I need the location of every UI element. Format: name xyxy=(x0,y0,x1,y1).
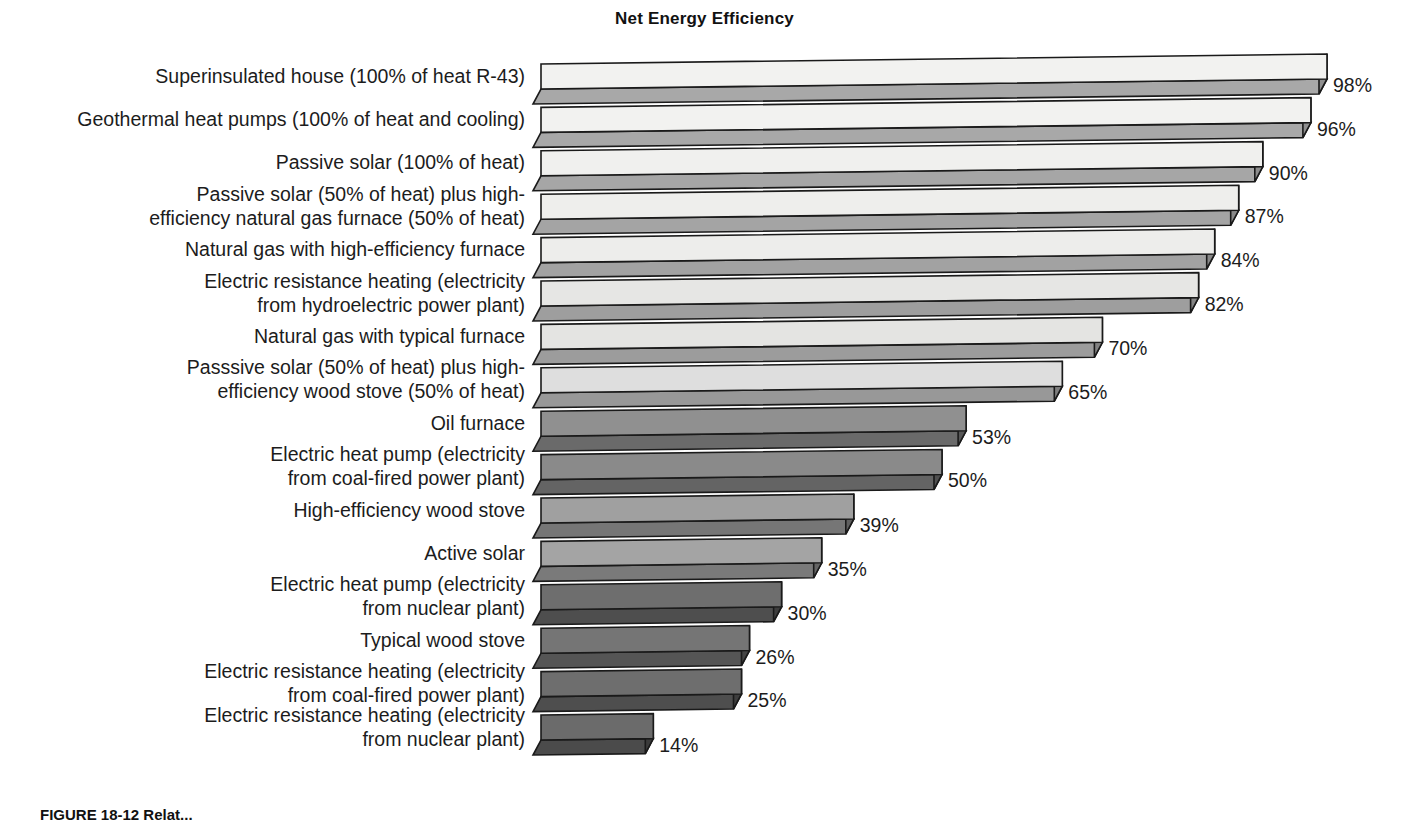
bar-top-face xyxy=(541,669,742,697)
bar-10 xyxy=(533,450,942,495)
bar-2 xyxy=(533,98,1311,148)
value-label: 30% xyxy=(788,602,827,625)
category-label: Active solar xyxy=(5,541,525,565)
bar-front-face xyxy=(533,739,653,755)
bar-1 xyxy=(533,54,1327,104)
bar-15 xyxy=(533,669,742,712)
category-label: Electric resistance heating (electricity… xyxy=(5,703,525,751)
value-label: 25% xyxy=(748,689,787,712)
category-label: High-efficiency wood stove xyxy=(5,498,525,522)
bar-12 xyxy=(533,538,822,582)
bar-16 xyxy=(533,714,653,755)
category-label: Passsive solar (50% of heat) plus high- … xyxy=(5,355,525,403)
value-label: 98% xyxy=(1333,74,1372,97)
bar-top-face xyxy=(541,538,822,567)
value-label: 96% xyxy=(1317,118,1356,141)
category-label: Electric resistance heating (electricity… xyxy=(5,659,525,707)
bar-8 xyxy=(533,361,1062,408)
bar-13 xyxy=(533,582,782,625)
value-label: 53% xyxy=(972,426,1011,449)
bar-14 xyxy=(533,626,750,669)
bar-top-face xyxy=(541,626,750,654)
value-label: 35% xyxy=(828,558,867,581)
category-label: Electric heat pump (electricity from nuc… xyxy=(5,572,525,620)
bar-6 xyxy=(533,273,1199,321)
category-label: Typical wood stove xyxy=(5,628,525,652)
bar-4 xyxy=(533,185,1239,234)
value-label: 50% xyxy=(948,469,987,492)
bar-3 xyxy=(533,142,1263,191)
value-label: 26% xyxy=(756,646,795,669)
category-label: Passive solar (100% of heat) xyxy=(5,150,525,174)
value-label: 90% xyxy=(1269,162,1308,185)
category-label: Natural gas with high-efficiency furnace xyxy=(5,237,525,261)
bar-5 xyxy=(533,229,1215,278)
bar-11 xyxy=(533,494,854,538)
category-label: Natural gas with typical furnace xyxy=(5,324,525,348)
category-label: Superinsulated house (100% of heat R-43) xyxy=(5,64,525,88)
category-label: Electric resistance heating (electricity… xyxy=(5,269,525,317)
category-label: Geothermal heat pumps (100% of heat and … xyxy=(5,107,525,131)
bar-top-face xyxy=(541,406,966,436)
category-label: Electric heat pump (electricity from coa… xyxy=(5,442,525,490)
value-label: 84% xyxy=(1221,249,1260,272)
value-label: 14% xyxy=(659,734,698,757)
bar-9 xyxy=(533,406,966,451)
chart-container: Net Energy Efficiency Superinsulated hou… xyxy=(0,0,1409,822)
value-label: 70% xyxy=(1108,337,1147,360)
bar-top-face xyxy=(541,450,942,480)
value-label: 87% xyxy=(1245,205,1284,228)
bar-top-face xyxy=(541,494,854,523)
bar-top-face xyxy=(541,714,653,740)
category-label: Passive solar (50% of heat) plus high- e… xyxy=(5,182,525,230)
category-label: Oil furnace xyxy=(5,411,525,435)
figure-caption: FIGURE 18-12 Relat... xyxy=(40,806,193,822)
value-label: 65% xyxy=(1068,381,1107,404)
value-label: 82% xyxy=(1205,293,1244,316)
value-label: 39% xyxy=(860,514,899,537)
bar-7 xyxy=(533,317,1102,364)
bar-top-face xyxy=(541,582,782,610)
